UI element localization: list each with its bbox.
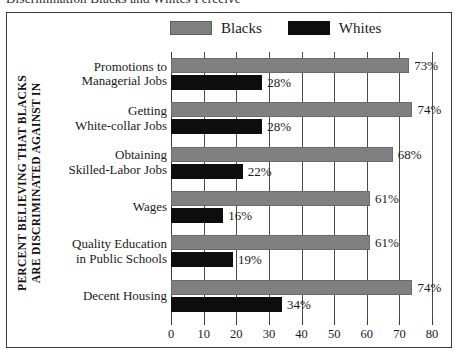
x-tick-50 — [334, 318, 335, 325]
bar-group: 61%16% — [171, 185, 432, 229]
bar-group: 74%34% — [171, 274, 432, 318]
x-tick-label-50: 50 — [328, 327, 341, 342]
bar-value-label: 68% — [398, 147, 422, 162]
category-label-line: Managerial Jobs — [37, 74, 167, 89]
x-tick-20 — [236, 318, 237, 325]
legend-swatch-blacks-icon — [170, 21, 212, 35]
x-tick-label-0: 0 — [168, 327, 174, 342]
bar-value-label: 22% — [248, 164, 272, 179]
category-label: ObtainingSkilled-Labor Jobs — [37, 148, 167, 177]
bar-value-label: 19% — [238, 252, 262, 267]
x-tick-80 — [432, 318, 433, 325]
x-tick-label-30: 30 — [263, 327, 276, 342]
bar-blacks — [171, 280, 412, 295]
bar-whites — [171, 252, 233, 267]
category-label: Quality Educationin Public Schools — [37, 237, 167, 266]
category-labels: Promotions toManagerial JobsGettingWhite… — [36, 52, 167, 318]
bar-value-label: 61% — [375, 191, 399, 206]
category-label-line: Obtaining — [37, 148, 167, 163]
chart-figure: Discrimination Blacks and Whites Perceiv… — [0, 0, 459, 354]
category-label-line: White-collar Jobs — [37, 119, 167, 134]
category-label: Promotions toManagerial Jobs — [37, 60, 167, 89]
bar-blacks — [171, 58, 409, 73]
x-tick-label-70: 70 — [393, 327, 406, 342]
x-tick-60 — [367, 318, 368, 325]
legend-label-blacks: Blacks — [221, 21, 262, 36]
x-tick-label-20: 20 — [230, 327, 243, 342]
x-tick-70 — [399, 318, 400, 325]
bar-group: 74%28% — [171, 96, 432, 140]
bar-blacks — [171, 235, 370, 250]
bar-whites — [171, 119, 262, 134]
legend-swatch-whites-icon — [288, 21, 330, 35]
category-label-line: Promotions to — [37, 60, 167, 75]
x-tick-0 — [171, 318, 172, 325]
x-tick-label-80: 80 — [426, 327, 439, 342]
bar-group: 73%28% — [171, 52, 432, 96]
bar-value-label: 16% — [228, 208, 252, 223]
category-label-line: Quality Education — [37, 237, 167, 252]
category-label: GettingWhite-collar Jobs — [37, 104, 167, 133]
legend-entry-whites: Whites — [288, 21, 382, 36]
category-label-line: Wages — [37, 200, 167, 215]
category-label-line: in Public Schools — [37, 252, 167, 267]
figure-caption: Discrimination Blacks and Whites Perceiv… — [6, 0, 453, 5]
category-label-line: Skilled-Labor Jobs — [37, 163, 167, 178]
bar-value-label: 74% — [417, 102, 441, 117]
x-tick-10 — [204, 318, 205, 325]
legend-entry-blacks: Blacks — [170, 21, 262, 36]
bar-whites — [171, 208, 223, 223]
bar-value-label: 28% — [267, 119, 291, 134]
bar-value-label: 28% — [267, 75, 291, 90]
bar-group: 68%22% — [171, 141, 432, 185]
chart-legend: Blacks Whites — [170, 19, 381, 37]
x-tick-label-60: 60 — [361, 327, 374, 342]
bar-whites — [171, 297, 282, 312]
plot-area: 0102030405060708073%28%74%28%68%22%61%16… — [171, 52, 432, 318]
bar-value-label: 73% — [414, 58, 438, 73]
x-tick-30 — [269, 318, 270, 325]
category-label: Wages — [37, 200, 167, 215]
bar-group: 61%19% — [171, 229, 432, 273]
bar-whites — [171, 164, 243, 179]
category-label-line: Getting — [37, 104, 167, 119]
x-tick-label-10: 10 — [197, 327, 210, 342]
category-label-line: Decent Housing — [37, 289, 167, 304]
bar-value-label: 61% — [375, 235, 399, 250]
bar-value-label: 74% — [417, 280, 441, 295]
bar-blacks — [171, 147, 393, 162]
legend-label-whites: Whites — [339, 21, 382, 36]
bar-blacks — [171, 102, 412, 117]
bar-whites — [171, 75, 262, 90]
x-tick-label-40: 40 — [295, 327, 308, 342]
y-axis-title-line1: PERCENT BELIEVING THAT BLACKS — [16, 75, 28, 291]
category-label: Decent Housing — [37, 289, 167, 304]
gridline-80 — [432, 52, 433, 318]
bar-blacks — [171, 191, 370, 206]
bar-value-label: 34% — [287, 297, 311, 312]
x-tick-40 — [302, 318, 303, 325]
